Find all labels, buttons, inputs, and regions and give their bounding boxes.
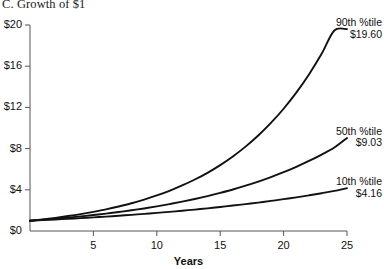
series-annotation-value: $19.60 — [336, 29, 382, 41]
axis-ticks — [25, 25, 347, 236]
series-line — [30, 138, 347, 221]
y-tick-label: $8 — [0, 142, 22, 154]
x-tick-label: 15 — [205, 239, 235, 251]
series-annotation-name: 10th %tile — [336, 176, 382, 188]
series-annotation: 90th %tile$19.60 — [336, 17, 382, 40]
x-tick-label: 10 — [142, 239, 172, 251]
x-tick-label: 5 — [78, 239, 108, 251]
y-tick-label: $12 — [0, 100, 22, 112]
y-tick-label: $4 — [0, 183, 22, 195]
y-tick-label: $20 — [0, 18, 22, 30]
data-series-lines — [30, 28, 347, 220]
y-tick-label: $0 — [0, 224, 22, 236]
x-tick-label: 20 — [269, 239, 299, 251]
chart-figure: C. Growth of $1 $0$4$8$12$16$20 51015202… — [0, 0, 384, 269]
series-annotation-value: $4.16 — [336, 188, 382, 200]
series-line — [30, 28, 347, 220]
x-tick-label: 25 — [332, 239, 362, 251]
series-annotation-value: $9.03 — [336, 137, 382, 149]
series-annotation: 50th %tile$9.03 — [336, 126, 382, 149]
series-annotation: 10th %tile$4.16 — [336, 176, 382, 199]
plot-area — [0, 0, 384, 269]
x-axis-title: Years — [149, 255, 229, 267]
series-annotation-name: 90th %tile — [336, 17, 382, 29]
y-tick-label: $16 — [0, 59, 22, 71]
